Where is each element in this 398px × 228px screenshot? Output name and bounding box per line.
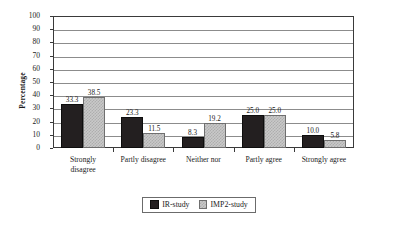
legend: IR-studyIMP2-study (0, 197, 398, 213)
gridline (54, 109, 353, 110)
legend-box: IR-studyIMP2-study (142, 197, 256, 213)
gridline (54, 123, 353, 124)
legend-label: IMP2-study (211, 200, 248, 209)
y-axis-title-label: Percentage (18, 72, 27, 108)
x-axis-category-label: Strongly agree (288, 155, 360, 165)
plot-area (53, 16, 354, 148)
gridline (54, 136, 353, 137)
x-axis-tick-mark (294, 148, 295, 152)
x-axis: Strongly disagreePartly disagreeNeither … (53, 148, 354, 182)
legend-swatch (199, 200, 208, 209)
gridline (54, 96, 353, 97)
y-axis-title: Percentage (16, 44, 28, 136)
gridline (54, 83, 353, 84)
gridline (54, 43, 353, 44)
gridline (54, 70, 353, 71)
x-axis-tick-mark (234, 148, 235, 152)
legend-label: IR-study (162, 200, 189, 209)
gridline (54, 57, 353, 58)
legend-item: IMP2-study (199, 200, 248, 209)
gridline (54, 30, 353, 31)
x-axis-tick-mark (173, 148, 174, 152)
legend-item: IR-study (150, 200, 189, 209)
legend-swatch (150, 200, 159, 209)
x-axis-tick-mark (113, 148, 114, 152)
bar-chart: Percentage 1009080706050403020100 33.338… (0, 0, 398, 228)
